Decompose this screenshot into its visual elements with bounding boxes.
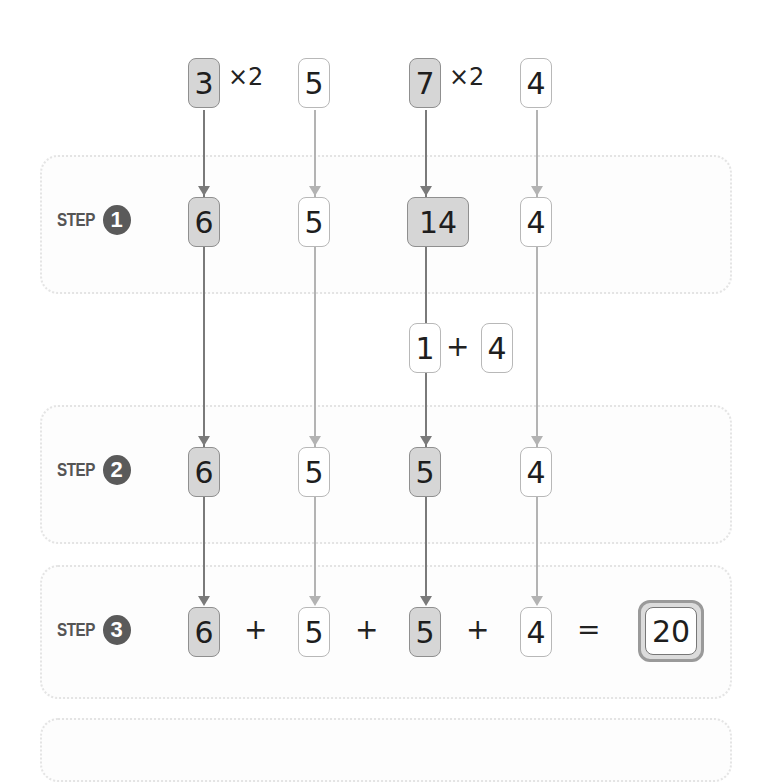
arrow-icon (198, 596, 210, 606)
next-panel-partial (40, 718, 732, 782)
plus-operator: + (466, 613, 489, 646)
step1-value-1: 6 (188, 197, 220, 247)
arrow-icon (531, 596, 543, 606)
step2-value-1: 6 (188, 447, 220, 497)
connector-col1 (203, 110, 205, 600)
plus-operator: + (355, 613, 378, 646)
digit-split-left: 1 (409, 323, 441, 373)
arrow-icon (198, 436, 210, 446)
digit-split-right: 4 (481, 323, 513, 373)
step-1-label: STEP 1 (57, 205, 131, 235)
arrow-icon (309, 436, 321, 446)
step-3-label: STEP 3 (57, 615, 131, 645)
connector-col4 (536, 110, 538, 600)
step2-value-2: 5 (298, 447, 330, 497)
digit-box-4: 4 (520, 58, 552, 108)
step2-value-3: 5 (409, 447, 441, 497)
plus-operator: + (244, 613, 267, 646)
result-value: 20 (645, 607, 697, 655)
connector-col2 (314, 110, 316, 600)
step-2-label: STEP 2 (57, 455, 131, 485)
step1-value-4: 4 (520, 197, 552, 247)
plus-operator: + (446, 330, 469, 363)
arrow-icon (420, 186, 432, 196)
step3-value-3: 5 (409, 607, 441, 657)
step-3-panel (40, 565, 732, 699)
digit-box-7: 7 (409, 58, 441, 108)
arrow-icon (198, 186, 210, 196)
step3-value-4: 4 (520, 607, 552, 657)
step-number-badge: 2 (103, 455, 131, 485)
step-number-badge: 1 (103, 205, 131, 235)
digit-box-5: 5 (298, 58, 330, 108)
step1-value-3: 14 (407, 197, 469, 247)
step-1-panel (40, 155, 732, 294)
equals-operator: = (577, 613, 600, 646)
arrow-icon (420, 596, 432, 606)
step3-value-1: 6 (188, 607, 220, 657)
arrow-icon (420, 436, 432, 446)
digit-box-3: 3 (188, 58, 220, 108)
step-2-panel (40, 405, 732, 544)
step1-value-2: 5 (298, 197, 330, 247)
arrow-icon (531, 436, 543, 446)
step-word: STEP (57, 209, 95, 231)
step2-value-4: 4 (520, 447, 552, 497)
multiply-label: ×2 (449, 63, 484, 91)
result-box: 20 (638, 600, 704, 662)
arrow-icon (531, 186, 543, 196)
step-word: STEP (57, 459, 95, 481)
step3-value-2: 5 (298, 607, 330, 657)
arrow-icon (309, 596, 321, 606)
step-number-badge: 3 (103, 615, 131, 645)
multiply-label: ×2 (228, 63, 263, 91)
arrow-icon (309, 186, 321, 196)
step-word: STEP (57, 619, 95, 641)
